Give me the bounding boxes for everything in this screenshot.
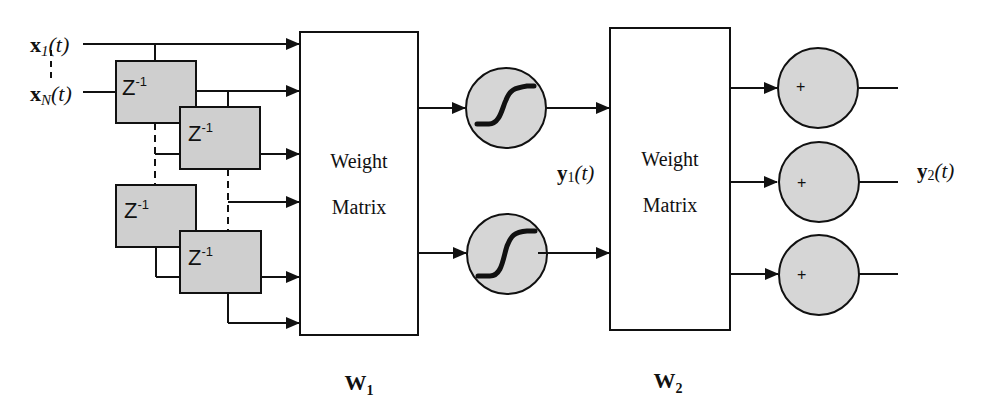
sum-node-2: +	[779, 142, 859, 222]
svg-text:Matrix: Matrix	[332, 196, 386, 218]
delay-block-4: Z-1	[180, 231, 261, 293]
sigmoid-node-2	[467, 214, 547, 294]
weight-matrix-1: Weight Matrix	[300, 32, 418, 335]
caption-W1: W1	[345, 370, 374, 398]
final-output-label: y2(t)	[917, 159, 954, 183]
sigmoid-node-1	[466, 68, 546, 148]
caption-W2: W2	[654, 368, 683, 396]
svg-text:Weight: Weight	[641, 148, 699, 171]
plus-icon: +	[796, 78, 805, 95]
plus-icon: +	[797, 266, 806, 283]
plus-icon: +	[797, 174, 806, 191]
svg-text:x1(t): x1(t)	[30, 32, 69, 59]
sum-node-3: +	[779, 235, 859, 315]
input-label-xN: xN(t)	[30, 81, 72, 108]
input-label-x1: x1(t)	[30, 32, 69, 59]
svg-text:Weight: Weight	[330, 150, 388, 173]
tdnn-diagram: x1(t) xN(t) Z-1 Z-1 Z-1 Z-1 Wei	[0, 0, 989, 413]
hidden-output-label: y1(t)	[557, 161, 594, 185]
delay-block-2: Z-1	[180, 107, 260, 169]
svg-text:Matrix: Matrix	[643, 194, 697, 216]
sum-node-1: +	[778, 48, 858, 128]
svg-text:xN(t): xN(t)	[30, 81, 72, 108]
weight-matrix-2: Weight Matrix	[610, 28, 730, 330]
